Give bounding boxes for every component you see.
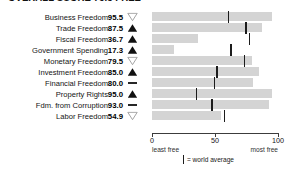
row-label: Investment Freedom [38, 67, 108, 76]
row-plot [152, 88, 278, 99]
world-average-mark [245, 22, 246, 34]
axis-tick-label: 0 [150, 136, 154, 145]
trend-up-icon [127, 89, 138, 98]
table-row: Financial Freedom80.0 [0, 77, 286, 88]
row-plot [152, 77, 278, 88]
world-average-mark [228, 11, 229, 23]
axis-label-least-free: least free [152, 146, 179, 153]
trend-flat-icon [127, 78, 138, 87]
trend-down-icon [127, 56, 138, 65]
row-plot [152, 44, 278, 55]
score-bar [152, 78, 253, 87]
table-row: Government Spending17.3 [0, 44, 286, 55]
trend-flat-icon [127, 100, 138, 109]
index-of-economic-freedom-chart: OVERALL SCORE 76.3 FREE Business Freedom… [0, 0, 286, 170]
score-bar [152, 56, 252, 65]
trend-up-icon [127, 23, 138, 32]
trend-up-icon [127, 34, 138, 43]
world-average-mark [224, 110, 225, 122]
row-score-value: 87.5 [99, 23, 123, 32]
world-average-mark [230, 44, 231, 56]
axis-tick-label: 50 [211, 136, 219, 145]
table-row: Monetary Freedom79.5 [0, 55, 286, 66]
table-row: Investment Freedom85.0 [0, 66, 286, 77]
score-bar [152, 67, 259, 76]
row-plot [152, 22, 278, 33]
world-average-mark [196, 88, 197, 100]
world-average-mark [214, 77, 215, 89]
row-score-value: 95.0 [99, 89, 123, 98]
world-average-mark [249, 33, 250, 45]
row-plot [152, 110, 278, 121]
row-label: Fdm. from Corruption [36, 100, 108, 109]
table-row: Fiscal Freedom36.7 [0, 33, 286, 44]
axis-tick-label: 100 [272, 136, 284, 145]
trend-up-icon [127, 45, 138, 54]
row-score-value: 80.0 [99, 78, 123, 87]
freedom-rows-list: Business Freedom95.5Trade Freedom87.5Fis… [0, 11, 286, 121]
trend-down-icon [127, 111, 138, 120]
world-average-mark [211, 99, 212, 111]
row-plot [152, 66, 278, 77]
score-bar [152, 111, 221, 120]
page-title: OVERALL SCORE 76.3 FREE [8, 0, 141, 3]
world-average-mark [216, 66, 217, 78]
row-plot [152, 99, 278, 110]
trend-up-icon [127, 67, 138, 76]
legend: = world average [183, 155, 234, 164]
row-score-value: 79.5 [99, 56, 123, 65]
table-row: Business Freedom95.5 [0, 11, 286, 22]
row-label: Government Spending [32, 45, 108, 54]
row-score-value: 93.0 [99, 100, 123, 109]
row-score-value: 36.7 [99, 34, 123, 43]
score-bar [152, 45, 174, 54]
row-plot [152, 55, 278, 66]
row-score-value: 17.3 [99, 45, 123, 54]
table-row: Labor Freedom54.9 [0, 110, 286, 121]
table-row: Property Rights95.0 [0, 88, 286, 99]
table-row: Fdm. from Corruption93.0 [0, 99, 286, 110]
row-plot [152, 33, 278, 44]
world-average-mark [244, 55, 245, 67]
trend-down-icon [127, 12, 138, 21]
row-score-value: 54.9 [99, 111, 123, 120]
row-score-value: 85.0 [99, 67, 123, 76]
row-score-value: 95.5 [99, 12, 123, 21]
world-average-icon [183, 155, 184, 164]
score-bar [152, 12, 272, 21]
table-row: Trade Freedom87.5 [0, 22, 286, 33]
score-bar [152, 34, 198, 43]
legend-label: = world average [187, 156, 234, 163]
axis-label-most-free: most free [251, 146, 278, 153]
score-bar [152, 89, 272, 98]
row-plot [152, 11, 278, 22]
